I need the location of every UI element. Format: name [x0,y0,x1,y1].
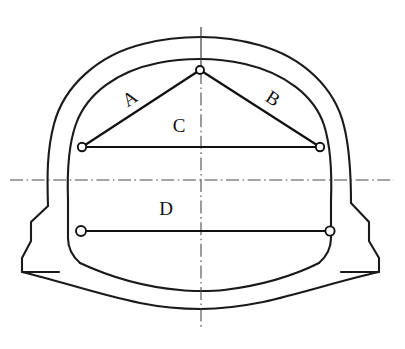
inner-invert-contour [80,263,319,291]
chord-line-b[interactable] [200,70,320,147]
right-footing-contour [341,203,379,272]
node-right-lower[interactable] [325,226,334,235]
node-crown[interactable] [196,66,204,74]
label-chord-b: B [262,86,284,111]
inner-lining-profile-group [68,59,332,291]
node-left-lower[interactable] [76,226,86,236]
label-chord-a: A [118,86,141,111]
tunnel-section-diagram: A B C D [0,0,405,349]
cross-section-canvas: A B C D [0,0,405,349]
measurement-nodes-group [76,66,335,236]
node-right-spring[interactable] [316,143,324,151]
left-footing-contour [22,206,59,272]
label-chord-c: C [173,115,186,136]
node-left-spring[interactable] [78,143,86,151]
outer-arch-contour [48,37,351,206]
label-chord-d: D [159,198,173,219]
